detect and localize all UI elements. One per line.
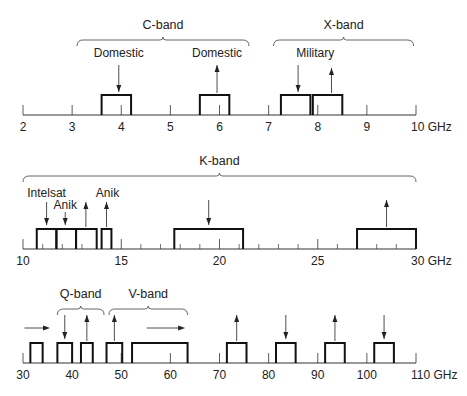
band-brace <box>23 173 416 182</box>
frequency-allocation-box <box>107 343 123 363</box>
tick-label: 30 <box>16 368 30 382</box>
tick-label: 100 <box>357 368 377 382</box>
frequency-allocation-box <box>56 229 76 249</box>
frequency-allocation-box <box>374 343 394 363</box>
tick-label: 6 <box>216 120 223 134</box>
arrowhead-down-icon <box>382 332 387 339</box>
tick-label: 20 <box>213 254 227 268</box>
frequency-allocation-box <box>174 229 243 249</box>
arrowhead-right-icon <box>43 326 50 331</box>
arrowhead-up-icon <box>234 315 239 322</box>
arrowhead-up-icon <box>215 65 220 72</box>
arrowhead-up-icon <box>112 315 117 322</box>
band-label: Q-band <box>60 287 102 301</box>
arrowhead-up-icon <box>84 315 89 322</box>
frequency-allocation-box <box>276 343 296 363</box>
tick-label: 90 <box>311 368 325 382</box>
band-label: V-band <box>128 287 168 301</box>
frequency-allocation-box <box>325 343 345 363</box>
band-brace <box>274 37 414 46</box>
frequency-rows: 2345678910 GHzDomesticDomesticMilitaryC-… <box>16 18 457 382</box>
band-label: C-band <box>143 18 184 32</box>
frequency-band-diagram: 2345678910 GHzDomesticDomesticMilitaryC-… <box>0 0 467 396</box>
arrowhead-down-icon <box>296 85 301 92</box>
band-label: K-band <box>199 154 239 168</box>
frequency-allocation-box <box>313 95 342 115</box>
arrowhead-up-icon <box>332 315 337 322</box>
arrowhead-up-icon <box>83 202 88 209</box>
tick-label: 9 <box>364 120 371 134</box>
frequency-allocation-box <box>37 229 57 249</box>
service-label: Domestic <box>192 46 242 60</box>
frequency-allocation-box <box>102 95 131 115</box>
tick-label: 8 <box>314 120 321 134</box>
tick-label: 15 <box>115 254 129 268</box>
frequency-allocation-box <box>30 343 42 363</box>
frequency-allocation-box <box>200 95 229 115</box>
service-label: Anik <box>96 186 120 200</box>
frequency-allocation-box <box>357 229 416 249</box>
band-label: X-band <box>323 18 363 32</box>
service-label: Domestic <box>94 46 144 60</box>
band-brace <box>109 306 188 315</box>
tick-label: 25 <box>311 254 325 268</box>
band-row-1: 2345678910 GHzDomesticDomesticMilitaryC-… <box>20 18 452 134</box>
frequency-allocation-box <box>81 343 93 363</box>
tick-label: 3 <box>69 120 76 134</box>
tick-label: 40 <box>65 368 79 382</box>
arrowhead-down-icon <box>206 218 211 225</box>
tick-label: 30 GHz <box>411 254 452 268</box>
arrowhead-down-icon <box>116 85 121 92</box>
arrowhead-up-icon <box>384 200 389 207</box>
tick-label: 70 <box>213 368 227 382</box>
arrowhead-down-icon <box>44 218 49 225</box>
arrowhead-up-icon <box>329 68 334 75</box>
band-row-3: 30405060708090100110 GHzQ-bandV-band <box>16 287 457 382</box>
arrowhead-up-icon <box>104 202 109 209</box>
frequency-allocation-box <box>76 229 97 249</box>
tick-label: 110 GHz <box>411 368 457 382</box>
frequency-allocation-box <box>57 343 72 363</box>
tick-label: 80 <box>262 368 276 382</box>
frequency-allocation-box <box>132 343 188 363</box>
band-brace <box>77 37 249 46</box>
tick-label: 5 <box>167 120 174 134</box>
arrowhead-down-icon <box>63 218 68 225</box>
arrowhead-right-icon <box>178 326 185 331</box>
frequency-allocation-box <box>102 229 112 249</box>
arrowhead-down-icon <box>283 332 288 339</box>
service-label: Anik <box>54 198 78 212</box>
band-brace <box>57 306 104 315</box>
arrowhead-down-icon <box>62 332 67 339</box>
band-row-2: 1015202530 GHzIntelsatAnikAnikK-band <box>16 154 451 268</box>
tick-label: 7 <box>265 120 272 134</box>
tick-label: 50 <box>115 368 129 382</box>
frequency-allocation-box <box>227 343 247 363</box>
tick-label: 4 <box>118 120 125 134</box>
tick-label: 10 <box>16 254 30 268</box>
tick-label: 60 <box>164 368 178 382</box>
tick-label: 10 GHz <box>411 120 452 134</box>
tick-label: 2 <box>20 120 27 134</box>
frequency-allocation-box <box>281 95 310 115</box>
service-label: Military <box>296 46 334 60</box>
